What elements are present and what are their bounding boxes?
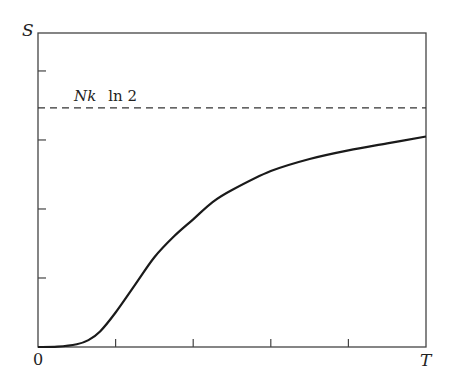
asymptote-label-nk: Nk [74, 87, 96, 105]
y-axis-label: S [22, 20, 34, 40]
asymptote-label-ln2: ln 2 [108, 87, 137, 105]
asymptote-label: Nkln 2 [74, 87, 137, 105]
axis-ticks [38, 71, 348, 347]
origin-label: 0 [33, 350, 43, 369]
entropy-curve [38, 137, 426, 347]
x-axis-label: T [420, 350, 431, 370]
entropy-chart [0, 0, 453, 383]
